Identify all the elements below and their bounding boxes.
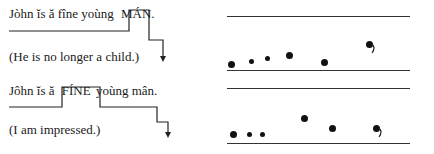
- pitch-top-line-1: [227, 16, 410, 17]
- pitch-bottom-line-2: [227, 143, 410, 144]
- arrow-down-icon: [165, 132, 171, 138]
- pitch-dot: [329, 125, 336, 132]
- intonation-contour-2: [0, 0, 217, 154]
- pitch-dot: [301, 115, 308, 122]
- pitch-dot: [260, 132, 265, 137]
- pitch-dot: [247, 132, 252, 137]
- pitch-dot: [321, 59, 328, 66]
- fall-tail-icon: [377, 127, 385, 139]
- pitch-bottom-line-1: [227, 70, 410, 71]
- fall-tail-icon: [370, 43, 378, 55]
- pitch-dot: [286, 52, 293, 59]
- pitch-dot: [228, 61, 235, 68]
- pitch-dot: [230, 131, 237, 138]
- pitch-top-line-2: [227, 88, 410, 89]
- pitch-dot: [265, 56, 270, 61]
- pitch-dot: [249, 59, 254, 64]
